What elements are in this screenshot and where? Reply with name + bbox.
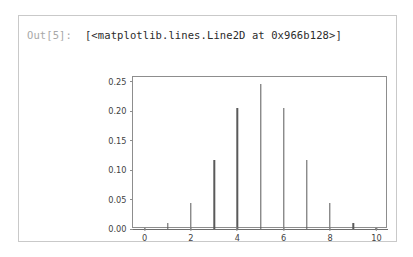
x-axis-tick: 0 (142, 227, 147, 243)
stem-line (167, 223, 168, 229)
plot-axes-frame: 0.000.050.100.150.200.250246810 (132, 76, 387, 228)
y-axis-tick-label: 0.10 (108, 165, 126, 175)
x-axis-tick-mark (144, 227, 145, 231)
y-axis-tick: 0.15 (108, 136, 133, 146)
x-axis-tick: 10 (371, 227, 381, 243)
out-prompt-label: Out[5]: (27, 29, 72, 41)
x-axis-tick-label: 6 (281, 233, 286, 243)
x-axis-tick-label: 2 (188, 233, 193, 243)
x-axis-tick-mark (330, 227, 331, 231)
stem-line (190, 203, 191, 229)
y-axis-tick-mark (130, 229, 134, 230)
stem-line (237, 108, 238, 229)
stem-line (329, 203, 330, 229)
y-axis-tick-label: 0.25 (108, 77, 126, 87)
x-axis-tick-label: 10 (371, 233, 381, 243)
stem-line (260, 84, 261, 229)
x-axis-tick-label: 4 (235, 233, 240, 243)
stem-line (283, 108, 284, 229)
x-axis-tick-label: 0 (142, 233, 147, 243)
y-axis-tick-mark (130, 111, 134, 112)
y-axis-tick-label: 0.20 (108, 106, 126, 116)
x-axis-tick-mark (376, 227, 377, 231)
y-axis-tick-mark (130, 199, 134, 200)
stem-line (213, 160, 214, 229)
output-prompt-row: Out[5]: [<matplotlib.lines.Line2D at 0x9… (19, 26, 396, 44)
matplotlib-figure: 0.000.050.100.150.200.250246810 (96, 46, 376, 234)
x-axis-tick: 2 (188, 227, 193, 243)
y-axis-tick: 0.05 (108, 195, 133, 205)
plot-data-area: 0.000.050.100.150.200.250246810 (133, 77, 386, 227)
x-axis-tick-mark (190, 227, 191, 231)
y-axis-tick: 0.25 (108, 77, 133, 87)
x-axis-tick-mark (237, 227, 238, 231)
y-axis-tick: 0.10 (108, 165, 133, 175)
y-axis-tick: 0.00 (108, 224, 133, 234)
stem-line (306, 160, 307, 229)
notebook-output-cell: Out[5]: [<matplotlib.lines.Line2D at 0x9… (18, 15, 397, 242)
x-axis-tick-label: 8 (327, 233, 332, 243)
y-axis-tick-mark (130, 81, 134, 82)
output-repr-text: [<matplotlib.lines.Line2D at 0x966b128>] (85, 29, 342, 41)
stem-baseline (133, 229, 388, 230)
stem-line (353, 223, 354, 229)
y-axis-tick-label: 0.05 (108, 195, 126, 205)
x-axis-tick: 4 (235, 227, 240, 243)
x-axis-tick: 6 (281, 227, 286, 243)
y-axis-tick-label: 0.15 (108, 136, 126, 146)
y-axis-tick-label: 0.00 (108, 224, 126, 234)
y-axis-tick: 0.20 (108, 106, 133, 116)
x-axis-tick: 8 (327, 227, 332, 243)
y-axis-tick-mark (130, 170, 134, 171)
x-axis-tick-mark (283, 227, 284, 231)
y-axis-tick-mark (130, 140, 134, 141)
